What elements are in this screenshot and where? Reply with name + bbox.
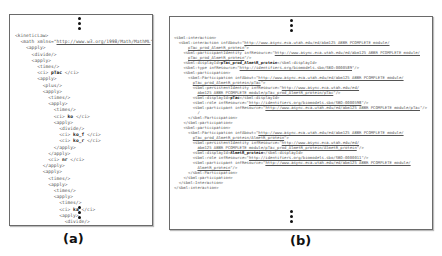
code-identifier: pTac <box>51 70 62 75</box>
code-text: <ci> <box>59 132 73 137</box>
sbol-code-block: <sbml:interaction> <sbml:interaction inf… <box>174 35 427 190</box>
code-text: </ci> <box>79 207 96 212</box>
code-text: "/> <box>357 145 364 150</box>
code-text: <apply> <box>54 194 73 199</box>
code-text: <apply> <box>59 213 78 218</box>
code-text: <times/> <box>54 188 76 193</box>
code-text: </ci> <box>68 157 85 162</box>
code-identifier: ko_r <box>73 138 84 143</box>
code-text: <divide/> <box>65 219 90 224</box>
code-text: <kineticLaw> <box>15 33 48 38</box>
code-text: <ci> <box>59 207 73 212</box>
code-text: <apply> <box>43 169 62 174</box>
code-text: <apply> <box>32 58 51 63</box>
code-text: </apply> <box>43 163 65 168</box>
caption-b: (b) <box>290 233 311 248</box>
ellipsis-bottom-icon <box>78 206 81 219</box>
panel-a-mathml-code: <kineticLaw> <math xmlns="http://www.w3.… <box>9 14 153 226</box>
code-line: <ci> kao_f </ci> <box>15 225 153 226</box>
code-text: <times/> <box>37 64 59 69</box>
code-text: <apply> <box>48 101 67 106</box>
code-text: </apply> <box>54 145 76 150</box>
code-link: http://www.async.eca.utah.edu/ed/abm125 … <box>265 105 420 110</box>
code-text: "/> <box>352 65 359 70</box>
code-text: <apply> <box>48 182 67 187</box>
code-text: <times/> <box>48 176 70 181</box>
code-text: "> <box>151 39 153 44</box>
panel-b-sbol-code: <sbml:interaction> <sbml:interaction inf… <box>169 16 433 230</box>
code-text: <ci> <box>48 157 62 162</box>
code-text: "/> <box>333 90 340 95</box>
code-text: <times/> <box>59 200 81 205</box>
code-text: </ci> <box>92 225 109 226</box>
code-link: http://www.async.eca.utah.edu/ed/abm125 … <box>265 160 410 165</box>
code-text: <math xmlns=" <box>21 39 57 44</box>
code-text: <ci> <box>54 114 68 119</box>
code-identifier: ko_f <box>73 132 84 137</box>
code-text: <ci> <box>59 138 73 143</box>
code-text: </sbml:interaction> <box>174 185 219 190</box>
code-text: </ci> <box>73 114 90 119</box>
ellipsis-top-icon <box>290 19 293 32</box>
ellipsis-top-icon <box>78 17 81 30</box>
code-line: </sbml:interaction> <box>174 185 427 190</box>
code-text: </ci> <box>84 138 101 143</box>
code-text: <apply> <box>37 76 56 81</box>
code-text: <apply> <box>54 120 73 125</box>
code-link: http://www.async.eca.utah.edu/ed/abm125 … <box>244 40 389 45</box>
ellipsis-bottom-icon <box>290 210 293 223</box>
code-text: "/> <box>420 105 427 110</box>
code-text: <times/> <box>48 95 70 100</box>
code-text: <divide/> <box>32 52 57 57</box>
code-link: http://www.async.eca.utah.edu/ed/abm125 … <box>258 75 403 80</box>
code-text: <apply> <box>43 89 62 94</box>
code-text: <apply> <box>26 45 45 50</box>
code-text: </ci> <box>84 132 101 137</box>
caption-a: (a) <box>63 231 84 246</box>
code-link: http://identifiers.org/biomodels.sbo/SBO… <box>240 65 352 70</box>
code-link: http://www.w3.org/1998/Math/MathML <box>57 39 151 44</box>
code-identifier: kao_f <box>79 225 93 226</box>
code-link: http://www.async.eca.utah.edu/ed/abm125 … <box>275 50 420 55</box>
code-line: <sbml:participant infResource="http://ww… <box>174 105 427 110</box>
code-text: <ci> <box>37 70 51 75</box>
code-text: <sbml:participant infResource=" <box>193 105 266 110</box>
code-text: </apply> <box>48 151 70 156</box>
mathml-code-block: <kineticLaw> <math xmlns="http://www.w3.… <box>15 33 153 226</box>
code-text: <ci> <box>65 225 79 226</box>
code-text: <plus/> <box>43 83 62 88</box>
code-text: <divide/> <box>59 126 84 131</box>
code-text: </ci> <box>62 70 79 75</box>
code-text: <times/> <box>54 107 76 112</box>
